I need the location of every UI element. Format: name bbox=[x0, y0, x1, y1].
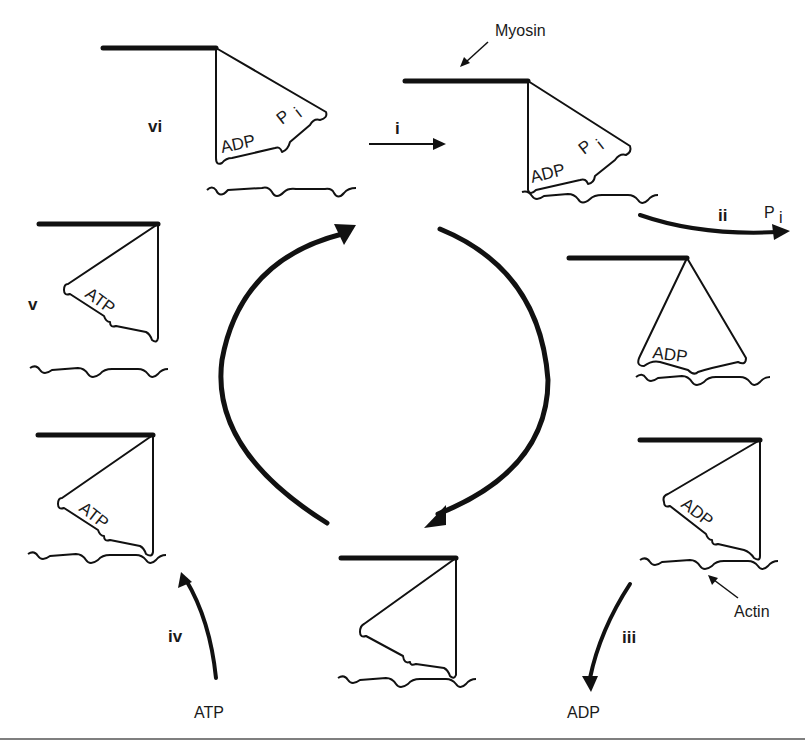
pi-product-subscript: i bbox=[779, 209, 783, 226]
actin-filament bbox=[207, 188, 356, 197]
pi-subscript: i bbox=[593, 136, 608, 153]
cycle-arrow-left bbox=[221, 234, 342, 523]
myosin-head bbox=[360, 558, 456, 678]
actin-label: Actin bbox=[734, 603, 770, 620]
cycle-arrows bbox=[221, 224, 548, 528]
adp-label: ADP bbox=[652, 343, 689, 366]
panel-v: ATP v bbox=[28, 224, 168, 377]
actin-filament bbox=[522, 192, 658, 204]
step-label-v: v bbox=[28, 295, 38, 314]
step-label-iv: iv bbox=[168, 627, 183, 646]
cross-bridge-cycle-diagram: ADP P i vi i ADP P i Myosin ii P i ADP bbox=[0, 0, 805, 750]
panel-vi: ADP P i vi bbox=[103, 48, 356, 197]
pi-product-label: P bbox=[764, 204, 775, 221]
arrow-head-icon bbox=[424, 505, 446, 528]
adp-label: ADP bbox=[678, 494, 717, 531]
pi-label: P bbox=[575, 136, 596, 158]
step-label-vi: vi bbox=[148, 117, 162, 136]
myosin-head bbox=[58, 435, 153, 556]
pi-subscript: i bbox=[291, 104, 306, 121]
actin-filament bbox=[30, 366, 168, 377]
myosin-head bbox=[64, 224, 158, 342]
panel-rigor bbox=[338, 558, 476, 687]
actin-pointer bbox=[714, 580, 738, 598]
pi-label: P bbox=[273, 106, 294, 128]
adp-label: ADP bbox=[528, 160, 567, 187]
panel-ii: ADP bbox=[569, 258, 770, 385]
panel-iv: ATP bbox=[28, 435, 166, 563]
adp-product-label: ADP bbox=[567, 704, 600, 721]
step-iii-arrow: iii ADP bbox=[567, 584, 636, 721]
cycle-arrow-right bbox=[438, 229, 548, 514]
panel-iii: ADP Actin bbox=[640, 440, 778, 620]
step-ii-arrow: ii P i bbox=[640, 204, 790, 240]
myosin-head bbox=[664, 440, 761, 560]
arrow-head-icon bbox=[460, 57, 470, 67]
actin-filament bbox=[338, 676, 476, 687]
arrow-head-icon bbox=[708, 575, 718, 585]
myosin-pointer bbox=[466, 42, 488, 62]
step-i-arrow: i bbox=[369, 119, 446, 150]
step-label-iii: iii bbox=[622, 628, 636, 647]
myosin-label: Myosin bbox=[495, 22, 546, 39]
atp-reactant-label: ATP bbox=[194, 704, 224, 721]
step-label-i: i bbox=[395, 119, 400, 138]
step-iv-arrow: iv ATP bbox=[168, 572, 224, 721]
step-label-ii: ii bbox=[718, 206, 727, 225]
panel-i: ADP P i Myosin bbox=[405, 22, 658, 203]
actin-filament bbox=[636, 375, 770, 385]
